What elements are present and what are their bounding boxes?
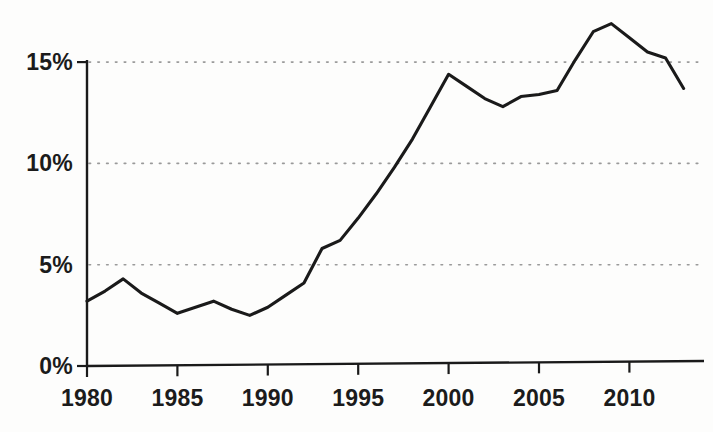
- x-tick-label-1980: 1980: [61, 385, 113, 411]
- x-axis-ticks: [87, 362, 629, 377]
- y-tick-label-10pct: 10%: [26, 150, 73, 176]
- x-tick-label-2005: 2005: [513, 385, 565, 411]
- y-tick-label-15pct: 15%: [26, 49, 73, 75]
- x-tick-label-1985: 1985: [151, 385, 203, 411]
- x-tick-label-2000: 2000: [423, 385, 475, 411]
- x-tick-label-1990: 1990: [242, 385, 294, 411]
- y-tick-label-0pct: 0%: [39, 353, 73, 379]
- y-axis-ticks: [77, 62, 87, 366]
- data-series-line: [87, 24, 684, 316]
- x-tick-label-2010: 2010: [603, 385, 655, 411]
- chart-container: 0%5%10%15% 1980198519901995200020052010: [0, 0, 713, 432]
- x-axis-tick-labels: 1980198519901995200020052010: [61, 385, 655, 411]
- line-chart: 0%5%10%15% 1980198519901995200020052010: [0, 0, 713, 432]
- x-axis-line: [87, 361, 704, 366]
- y-axis-tick-labels: 0%5%10%15%: [26, 49, 73, 379]
- y-tick-label-5pct: 5%: [39, 252, 73, 278]
- x-tick-label-1995: 1995: [332, 385, 384, 411]
